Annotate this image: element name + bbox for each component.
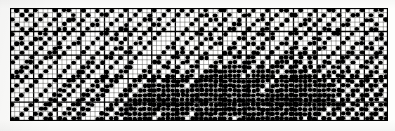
pattern-chart — [10, 8, 388, 121]
stitch-symbol-layer — [10, 8, 388, 121]
pattern-chart-page — [0, 0, 395, 131]
